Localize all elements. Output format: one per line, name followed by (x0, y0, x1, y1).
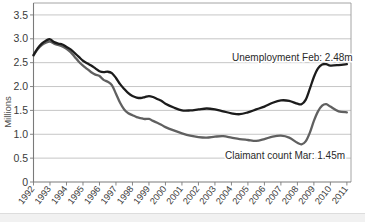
x-tick-label: 2003 (198, 184, 218, 206)
y-axis-title: Millions (2, 96, 13, 128)
x-tick-label: 2004 (214, 184, 234, 206)
y-axis-ticks: 00.51.01.52.02.53.03.5 (13, 9, 33, 188)
y-tick-label: 3.0 (13, 32, 28, 44)
x-tick-label: 1998 (115, 184, 135, 206)
y-tick-label: 2.5 (13, 56, 28, 68)
unemployment-annotation: Unemployment Feb: 2.48m (232, 52, 353, 63)
claimant-annotation: Claimant count Mar: 1.45m (225, 150, 345, 161)
x-tick-label: 2005 (231, 184, 251, 206)
x-tick-label: 1997 (99, 184, 119, 206)
x-tick-label: 1994 (49, 184, 69, 206)
y-tick-label: 1.5 (13, 104, 28, 116)
x-tick-label: 2008 (280, 184, 300, 206)
footer-strip (0, 213, 365, 222)
series-line-unemployment (34, 39, 347, 114)
x-tick-label: 2007 (264, 184, 284, 206)
x-tick-label: 1993 (33, 184, 53, 206)
x-tick-label: 2001 (165, 184, 185, 206)
x-tick-label: 2000 (148, 184, 168, 206)
x-tick-label: 1996 (82, 184, 102, 206)
x-tick-label: 2009 (296, 184, 316, 206)
x-axis-ticks: 1992199319941995199619971998199920002001… (16, 182, 350, 206)
y-tick-label: 1.0 (13, 128, 28, 140)
x-tick-label: 1999 (132, 184, 152, 206)
x-tick-label: 2006 (247, 184, 267, 206)
chart-container: 00.51.01.52.02.53.03.5Millions1992199319… (0, 0, 365, 222)
x-tick-label: 1992 (16, 184, 36, 206)
y-tick-label: 0.5 (13, 152, 28, 164)
x-tick-label: 2010 (313, 184, 333, 206)
x-tick-label: 1995 (66, 184, 86, 206)
y-tick-label: 2.0 (13, 80, 28, 92)
y-tick-label: 3.5 (13, 9, 28, 21)
annotations: Unemployment Feb: 2.48mUnemployment Feb:… (225, 52, 353, 161)
x-tick-label: 2002 (181, 184, 201, 206)
x-tick-label: 2011 (330, 184, 350, 206)
line-chart: 00.51.01.52.02.53.03.5Millions1992199319… (0, 0, 365, 222)
